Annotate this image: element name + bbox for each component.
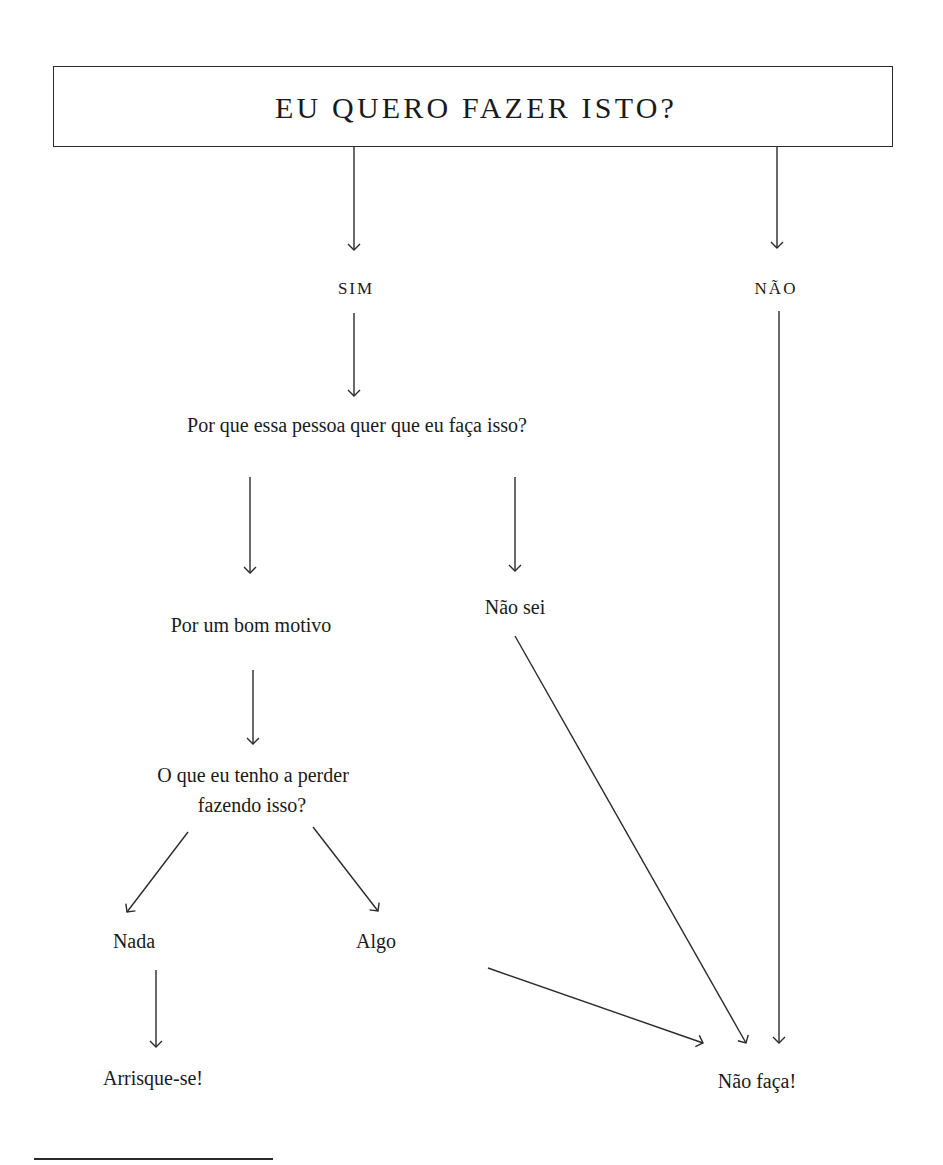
arrow-something-to-dont-do (488, 968, 703, 1043)
node-lose-question-line1: O que eu tenho a perder (157, 765, 349, 785)
node-yes: SIM (338, 280, 374, 297)
node-dont-know: Não sei (485, 597, 546, 617)
flowchart-title: EU QUERO FAZER ISTO? (275, 91, 677, 125)
footnote-rule (34, 1158, 273, 1160)
node-lose-question-line2: fazendo isso? (198, 795, 306, 815)
arrow-lose-to-nothing (127, 832, 188, 912)
node-no: NÃO (755, 280, 798, 297)
flowchart-canvas: EU QUERO FAZER ISTO? SIM NÃO Por que ess… (0, 0, 943, 1165)
title-box: EU QUERO FAZER ISTO? (53, 66, 893, 147)
node-nothing: Nada (113, 931, 155, 951)
node-take-risk: Arrisque-se! (103, 1068, 203, 1088)
node-something: Algo (356, 931, 396, 951)
flowchart-arrows (0, 0, 943, 1165)
arrow-lose-to-something (313, 827, 378, 911)
node-dont-do-it: Não faça! (718, 1071, 796, 1091)
arrow-dont-know-to-dont-do (515, 636, 746, 1043)
node-why-question: Por que essa pessoa quer que eu faça iss… (187, 415, 527, 435)
node-good-reason: Por um bom motivo (171, 615, 332, 635)
